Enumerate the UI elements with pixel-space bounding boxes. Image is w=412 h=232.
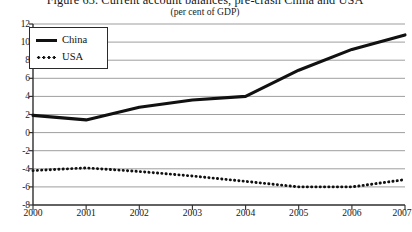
- legend-solid-line-icon: [36, 39, 57, 42]
- y-tick-0: 0: [4, 128, 30, 138]
- y-axis-tick-labels: 12 10 8 6 4 2 0 -2 -4 -6 -8: [0, 24, 30, 205]
- x-axis-tick-labels: 2000 2001 2002 2003 2004 2005 2006 2007: [33, 207, 405, 223]
- figure-subtitle: (per cent of GDP): [0, 7, 410, 17]
- y-tick-10: 10: [4, 37, 30, 47]
- y-tick-minus-4: -4: [4, 164, 30, 174]
- legend-label-china: China: [62, 35, 87, 46]
- legend-entry-usa: USA: [36, 49, 83, 65]
- x-tick-2000: 2000: [23, 207, 42, 218]
- x-tick-2005: 2005: [289, 207, 308, 218]
- y-tick-4: 4: [4, 91, 30, 101]
- x-tick-2006: 2006: [342, 207, 361, 218]
- x-tick-2007: 2007: [392, 207, 411, 218]
- legend-label-usa: USA: [62, 52, 83, 63]
- y-tick-6: 6: [4, 73, 30, 83]
- chart-legend: China USA: [29, 27, 108, 69]
- y-tick-minus-2: -2: [4, 146, 30, 156]
- y-tick-8: 8: [4, 55, 30, 65]
- legend-entry-china: China: [36, 32, 87, 48]
- x-tick-2002: 2002: [130, 207, 149, 218]
- x-tick-2001: 2001: [77, 207, 96, 218]
- series-line-usa: [33, 168, 405, 187]
- y-tick-2: 2: [4, 110, 30, 120]
- x-tick-2003: 2003: [183, 207, 202, 218]
- x-tick-2004: 2004: [236, 207, 255, 218]
- figure-title-block: Figure 63. Current account balances, pre…: [0, 0, 410, 16]
- legend-dotted-line-icon: [36, 56, 57, 59]
- y-tick-minus-6: -6: [4, 182, 30, 192]
- y-tick-12: 12: [4, 19, 30, 29]
